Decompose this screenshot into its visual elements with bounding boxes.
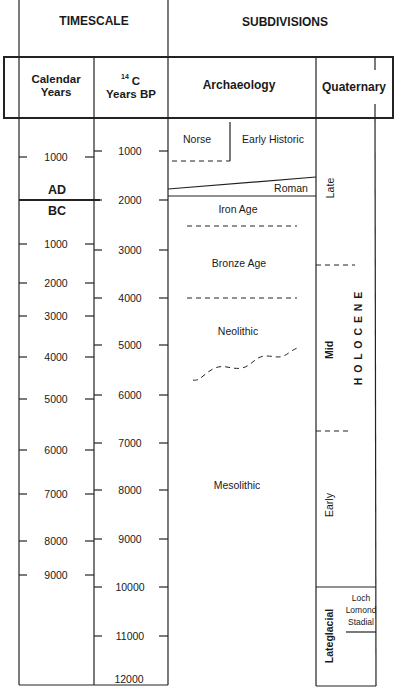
c14-years-header: C — [132, 75, 140, 87]
calendar-tick-label: 1000 — [44, 238, 68, 250]
calendar-years-header: Calendar — [31, 73, 81, 85]
c14-tick-label: 9000 — [118, 533, 142, 545]
calendar-tick-label: 6000 — [44, 444, 68, 456]
calendar-tick-group — [19, 157, 94, 575]
c14-tick-label: 6000 — [118, 389, 142, 401]
c14-tick-label: 10000 — [115, 581, 144, 593]
calendar-tick-label: 7000 — [44, 488, 68, 500]
holocene-label: H O L O C E N E — [352, 291, 364, 386]
calendar-tick-label: 2000 — [44, 277, 68, 289]
calendar-tick-label: 8000 — [44, 535, 68, 547]
neolithic-label: Neolithic — [218, 325, 258, 337]
subdivisions-heading: SUBDIVISIONS — [242, 15, 328, 29]
mesolithic-label: Mesolithic — [214, 479, 261, 491]
timescale-diagram: TIMESCALE SUBDIVISIONS Calendar Years 14… — [0, 0, 404, 698]
c14-superscript: 14 — [121, 73, 129, 80]
calendar-years-header: Years — [41, 86, 72, 98]
archaeology-header: Archaeology — [203, 78, 276, 92]
c14-tick-label: 11000 — [116, 630, 145, 642]
c14-tick-label: 5000 — [118, 339, 142, 351]
early-label: Early — [323, 492, 335, 517]
iron-age-label: Iron Age — [218, 203, 257, 215]
c14-years-header: Years BP — [106, 88, 156, 100]
calendar-tick-label: 3000 — [44, 310, 68, 322]
neolithic-mesolithic-wavy-boundary — [193, 347, 300, 380]
early-historic-label: Early Historic — [242, 133, 304, 145]
bc-label: BC — [48, 204, 66, 218]
norse-label: Norse — [183, 133, 211, 145]
c14-tick-label: 4000 — [118, 292, 142, 304]
lateglacial-label: Lateglacial — [323, 609, 335, 663]
c14-tick-label: 8000 — [118, 484, 142, 496]
calendar-tick-label: 9000 — [44, 569, 68, 581]
stadial-label: Stadial — [348, 617, 374, 627]
lomond-label: Lomond — [346, 605, 377, 615]
c14-tick-label: 7000 — [118, 437, 142, 449]
c14-tick-label: 3000 — [118, 244, 142, 256]
quaternary-header: Quaternary — [322, 80, 386, 94]
c14-tick-label: 1000 — [118, 145, 142, 157]
c14-tick-label: 2000 — [118, 194, 142, 206]
mid-label: Mid — [323, 341, 335, 359]
ad-label: AD — [48, 183, 66, 197]
calendar-tick-label: 1000 — [44, 151, 68, 163]
roman-label: Roman — [274, 182, 308, 194]
calendar-tick-label: 4000 — [44, 351, 68, 363]
quaternary-column-right — [375, 118, 376, 686]
bronze-age-label: Bronze Age — [212, 257, 266, 269]
late-label: Late — [324, 178, 336, 199]
timescale-heading: TIMESCALE — [59, 14, 128, 28]
loch-label: Loch — [352, 593, 371, 603]
c14-tick-label: 12000 — [114, 673, 143, 685]
calendar-tick-label: 5000 — [44, 393, 68, 405]
